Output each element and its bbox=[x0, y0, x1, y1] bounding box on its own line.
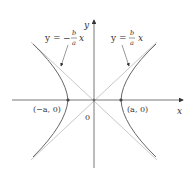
vertex-right-dot bbox=[119, 98, 122, 101]
diagram-canvas: y = − b a x y = b a x y x 0 (−a, 0) (a, … bbox=[0, 0, 195, 180]
hyperbola-diagram: y = − b a x y = b a x y x 0 (−a, 0) (a, … bbox=[0, 0, 195, 180]
label-numerator: b bbox=[72, 29, 76, 37]
vertex-right-label: (a, 0) bbox=[127, 105, 148, 114]
x-axis-label: x bbox=[177, 106, 182, 116]
label-denominator: a bbox=[130, 39, 134, 47]
left-label-pointer bbox=[61, 45, 68, 66]
label-variable: x bbox=[138, 33, 143, 43]
origin-dot bbox=[93, 99, 95, 101]
label-numerator: b bbox=[130, 29, 134, 37]
label-denominator: a bbox=[72, 39, 76, 47]
label-variable: x bbox=[79, 33, 84, 43]
vertex-left-label: (−a, 0) bbox=[33, 105, 61, 114]
label-lhs: y = bbox=[44, 33, 61, 43]
origin-label: 0 bbox=[85, 113, 90, 122]
label-lhs: y = bbox=[110, 33, 127, 43]
y-axis-label: y bbox=[83, 20, 90, 30]
vertex-left-dot bbox=[66, 98, 69, 101]
right-label-pointer bbox=[122, 45, 129, 66]
asymptote-label-left: y = − b a x bbox=[44, 29, 84, 47]
hyperbola-right-branch bbox=[121, 44, 156, 157]
label-sign: − bbox=[63, 33, 71, 43]
asymptote-label-right: y = b a x bbox=[110, 29, 143, 47]
